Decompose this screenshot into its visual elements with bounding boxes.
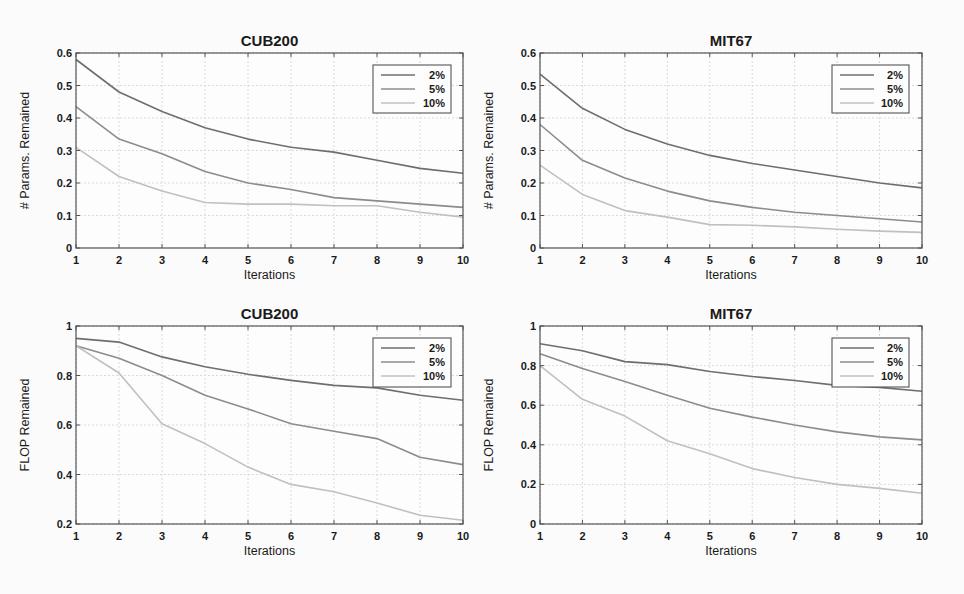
legend-label: 5% <box>429 356 445 368</box>
subplot-cub200-params: 1234567891000.10.20.30.40.50.6CUB200Iter… <box>18 32 469 282</box>
legend-label: 10% <box>423 370 445 382</box>
x-tick-label: 4 <box>664 530 671 542</box>
y-tick-label: 0.6 <box>521 47 536 59</box>
x-tick-label: 9 <box>417 254 423 266</box>
legend: 2%5%10% <box>373 65 451 113</box>
y-tick-label: 0.2 <box>521 177 536 189</box>
x-tick-label: 7 <box>792 254 798 266</box>
y-tick-label: 0.5 <box>521 80 536 92</box>
x-tick-label: 6 <box>288 530 294 542</box>
x-axis-label: Iterations <box>244 268 295 282</box>
legend: 2%5%10% <box>373 338 451 387</box>
y-tick-label: 0.6 <box>57 47 72 59</box>
x-tick-label: 5 <box>707 254 713 266</box>
y-tick-label: 0 <box>530 242 536 254</box>
x-tick-label: 7 <box>792 530 798 542</box>
x-tick-label: 9 <box>417 530 423 542</box>
y-tick-label: 0.8 <box>57 370 72 382</box>
x-tick-label: 6 <box>288 254 294 266</box>
x-tick-label: 7 <box>331 254 337 266</box>
y-tick-label: 0.4 <box>521 439 537 451</box>
chart-title: CUB200 <box>241 32 299 49</box>
x-tick-label: 2 <box>116 254 122 266</box>
legend-label: 10% <box>881 370 903 382</box>
y-tick-label: 0.6 <box>521 399 536 411</box>
x-tick-label: 9 <box>876 254 882 266</box>
x-axis-label: Iterations <box>244 544 295 558</box>
x-tick-label: 4 <box>664 254 671 266</box>
x-tick-label: 10 <box>457 254 469 266</box>
x-tick-label: 1 <box>537 254 543 266</box>
legend-label: 2% <box>887 69 903 81</box>
legend-label: 2% <box>429 342 445 354</box>
figure-canvas: 1234567891000.10.20.30.40.50.6CUB200Iter… <box>0 0 964 594</box>
y-axis-label: FLOP Remained <box>18 379 32 472</box>
x-tick-label: 6 <box>749 254 755 266</box>
chart-title: CUB200 <box>241 305 299 322</box>
legend-label: 10% <box>881 97 903 109</box>
x-tick-label: 4 <box>202 530 209 542</box>
y-tick-label: 1 <box>66 320 72 332</box>
y-tick-label: 0.6 <box>57 419 72 431</box>
x-tick-label: 2 <box>579 530 585 542</box>
y-tick-label: 0.2 <box>521 478 536 490</box>
x-tick-label: 3 <box>159 254 165 266</box>
subplot-mit67-params: 1234567891000.10.20.30.40.50.6MIT67Itera… <box>482 32 928 282</box>
x-tick-label: 5 <box>245 254 251 266</box>
y-tick-label: 0.5 <box>57 80 72 92</box>
x-axis-label: Iterations <box>705 268 756 282</box>
legend-label: 2% <box>429 69 445 81</box>
x-tick-label: 7 <box>331 530 337 542</box>
y-tick-label: 0.3 <box>521 145 536 157</box>
y-tick-label: 1 <box>530 320 536 332</box>
figure: 1234567891000.10.20.30.40.50.6CUB200Iter… <box>0 0 964 594</box>
x-tick-label: 8 <box>374 254 380 266</box>
x-tick-label: 3 <box>622 530 628 542</box>
y-tick-label: 0 <box>530 518 536 530</box>
x-tick-label: 2 <box>579 254 585 266</box>
x-tick-label: 4 <box>202 254 209 266</box>
subplot-cub200-flop: 123456789100.20.40.60.81CUB200Iterations… <box>18 305 469 558</box>
y-axis-label: # Params. Remained <box>482 92 496 209</box>
y-tick-label: 0.4 <box>57 469 73 481</box>
y-tick-label: 0.2 <box>57 518 72 530</box>
x-tick-label: 2 <box>116 530 122 542</box>
y-tick-label: 0.2 <box>57 177 72 189</box>
chart-title: MIT67 <box>710 32 753 49</box>
x-tick-label: 1 <box>73 530 79 542</box>
x-tick-label: 1 <box>537 530 543 542</box>
x-tick-label: 10 <box>916 254 928 266</box>
x-tick-label: 6 <box>749 530 755 542</box>
legend-label: 5% <box>887 83 903 95</box>
legend-label: 10% <box>423 97 445 109</box>
legend-label: 2% <box>887 342 903 354</box>
subplot-mit67-flop: 1234567891000.20.40.60.81MIT67Iterations… <box>482 305 928 558</box>
y-tick-label: 0.1 <box>521 210 536 222</box>
chart-title: MIT67 <box>710 305 753 322</box>
x-tick-label: 8 <box>834 530 840 542</box>
x-tick-label: 1 <box>73 254 79 266</box>
x-tick-label: 9 <box>876 530 882 542</box>
y-tick-label: 0 <box>66 242 72 254</box>
x-tick-label: 3 <box>159 530 165 542</box>
x-tick-label: 3 <box>622 254 628 266</box>
x-tick-label: 10 <box>916 530 928 542</box>
y-tick-label: 0.4 <box>57 112 73 124</box>
x-tick-label: 8 <box>374 530 380 542</box>
x-tick-label: 5 <box>707 530 713 542</box>
y-tick-label: 0.8 <box>521 360 536 372</box>
y-axis-label: # Params. Remained <box>18 92 32 209</box>
legend: 2%5%10% <box>832 338 909 387</box>
legend: 2%5%10% <box>832 65 909 113</box>
legend-label: 5% <box>887 356 903 368</box>
x-tick-label: 5 <box>245 530 251 542</box>
x-tick-label: 8 <box>834 254 840 266</box>
y-tick-label: 0.3 <box>57 145 72 157</box>
y-tick-label: 0.4 <box>521 112 537 124</box>
x-tick-label: 10 <box>457 530 469 542</box>
legend-label: 5% <box>429 83 445 95</box>
y-tick-label: 0.1 <box>57 210 72 222</box>
y-axis-label: FLOP Remained <box>482 379 496 472</box>
x-axis-label: Iterations <box>705 544 756 558</box>
